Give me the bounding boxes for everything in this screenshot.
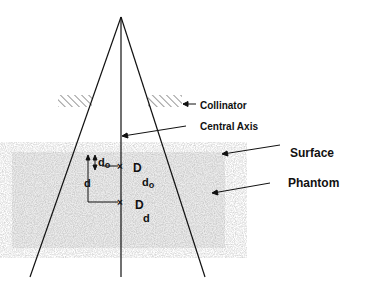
d-label: d	[84, 177, 91, 189]
collimator-right	[148, 95, 182, 107]
beam-diagram: × × do d D do D d Collinator Central Axi…	[0, 0, 366, 290]
arrowhead	[183, 102, 188, 107]
collimator-left	[58, 95, 92, 107]
surface-arrow	[223, 145, 280, 154]
dose-d0-label: D	[133, 161, 142, 175]
phantom-label: Phantom	[288, 176, 339, 190]
point-marker-d0: ×	[117, 161, 123, 172]
central-axis-arrow	[123, 126, 186, 136]
dose-d-label: D	[135, 198, 144, 212]
collimator-label: Collinator	[200, 100, 247, 111]
central-axis-label: Central Axis	[200, 121, 258, 132]
dose-d-subscript: d	[143, 212, 150, 224]
surface-label: Surface	[290, 146, 334, 160]
arrowhead	[122, 133, 128, 138]
point-marker-d: ×	[117, 197, 123, 208]
